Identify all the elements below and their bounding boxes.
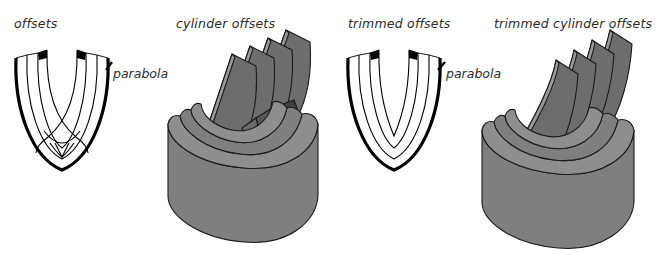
- parabola-outer-curve: [16, 58, 108, 170]
- panel-offsets: offsets parabola: [0, 0, 160, 258]
- offset-curves-figure: offsets parabola cylinder offse: [0, 0, 664, 258]
- offsets-drawing: [0, 0, 160, 258]
- panel-trimmed-cylinder-offsets: trimmed cylinder offsets: [470, 0, 664, 258]
- trimmed-parabola-outer-curve: [348, 58, 440, 170]
- trimmed-offsets-drawing: [330, 0, 480, 258]
- swallowtail-loop-1: [44, 131, 80, 143]
- trimmed-offset-curve-2: [370, 53, 418, 148]
- trimmed-cusp-marker-right: [409, 50, 418, 60]
- panel-cylinder-offsets: cylinder offsets: [160, 0, 340, 258]
- offset-top-ticks: [16, 50, 108, 58]
- cusp-marker-left: [38, 50, 47, 60]
- panel-trimmed-offsets: trimmed offsets parabola: [330, 0, 480, 258]
- trimmed-cylinder-offsets-drawing: [470, 0, 664, 258]
- offset-curve-2: [38, 53, 86, 148]
- swallowtail-cusp-lines: [55, 143, 69, 157]
- swallowtail-loop-2: [50, 143, 74, 157]
- cylinder-offsets-drawing: [160, 0, 340, 258]
- trimmed-offset-curve-3: [379, 50, 409, 136]
- trimmed-cusp-marker-left: [370, 50, 379, 60]
- cusp-marker-right: [77, 50, 86, 60]
- trimmed-offset-top-ticks: [348, 50, 440, 58]
